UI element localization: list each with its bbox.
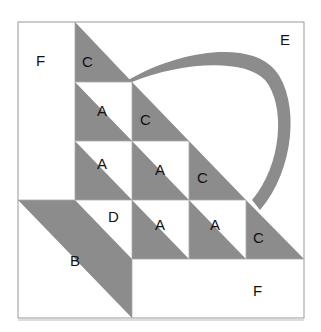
label-a-row2: A (97, 102, 107, 119)
label-c-row1: C (82, 53, 93, 70)
label-f-bottom-right: F (253, 282, 262, 299)
label-e-top-right: E (280, 31, 290, 48)
label-a-row4-col3: A (210, 216, 220, 233)
label-d-row4: D (108, 208, 119, 225)
label-f-top-left: F (36, 52, 45, 69)
label-c-row3: C (197, 169, 208, 186)
label-c-row2: C (140, 111, 151, 128)
label-c-row4: C (253, 229, 264, 246)
quilt-block-diagram: F E C A C A A C D A A C B F (0, 0, 321, 332)
label-a-row3-col1: A (97, 155, 107, 172)
label-b: B (70, 252, 80, 269)
label-a-row3-col2: A (155, 161, 165, 178)
label-a-row4-col2: A (155, 216, 165, 233)
